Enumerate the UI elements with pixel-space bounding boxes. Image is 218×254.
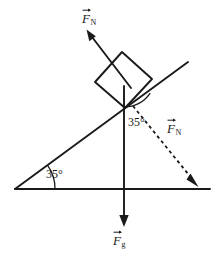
gravity-force-subscript: g bbox=[121, 240, 125, 249]
normal-force-top-label: FN bbox=[82, 10, 96, 27]
normal-force-dashed-subscript: N bbox=[175, 128, 181, 137]
block-angle-label: 35° bbox=[128, 116, 145, 128]
normal-force-dashed-label: FN bbox=[167, 120, 181, 137]
weight-force-arrowhead bbox=[119, 215, 128, 227]
incline-surface-line bbox=[15, 62, 188, 189]
normal-force-top-symbol: FN bbox=[82, 12, 96, 27]
dashed-normal-arrowhead bbox=[187, 174, 199, 188]
normal-force-top-letter: F bbox=[82, 11, 90, 26]
incline-angle-label: 35° bbox=[46, 168, 63, 180]
gravity-force-letter: F bbox=[113, 233, 121, 248]
gravity-force-symbol: Fg bbox=[113, 234, 125, 249]
diagram-canvas bbox=[0, 0, 218, 254]
normal-force-top-subscript: N bbox=[90, 18, 96, 27]
physics-diagram-figure: FN FN Fg 35° 35° bbox=[0, 0, 218, 254]
normal-force-dashed-symbol: FN bbox=[167, 122, 181, 137]
normal-force-dashed-letter: F bbox=[167, 121, 175, 136]
gravity-force-label: Fg bbox=[113, 232, 125, 249]
